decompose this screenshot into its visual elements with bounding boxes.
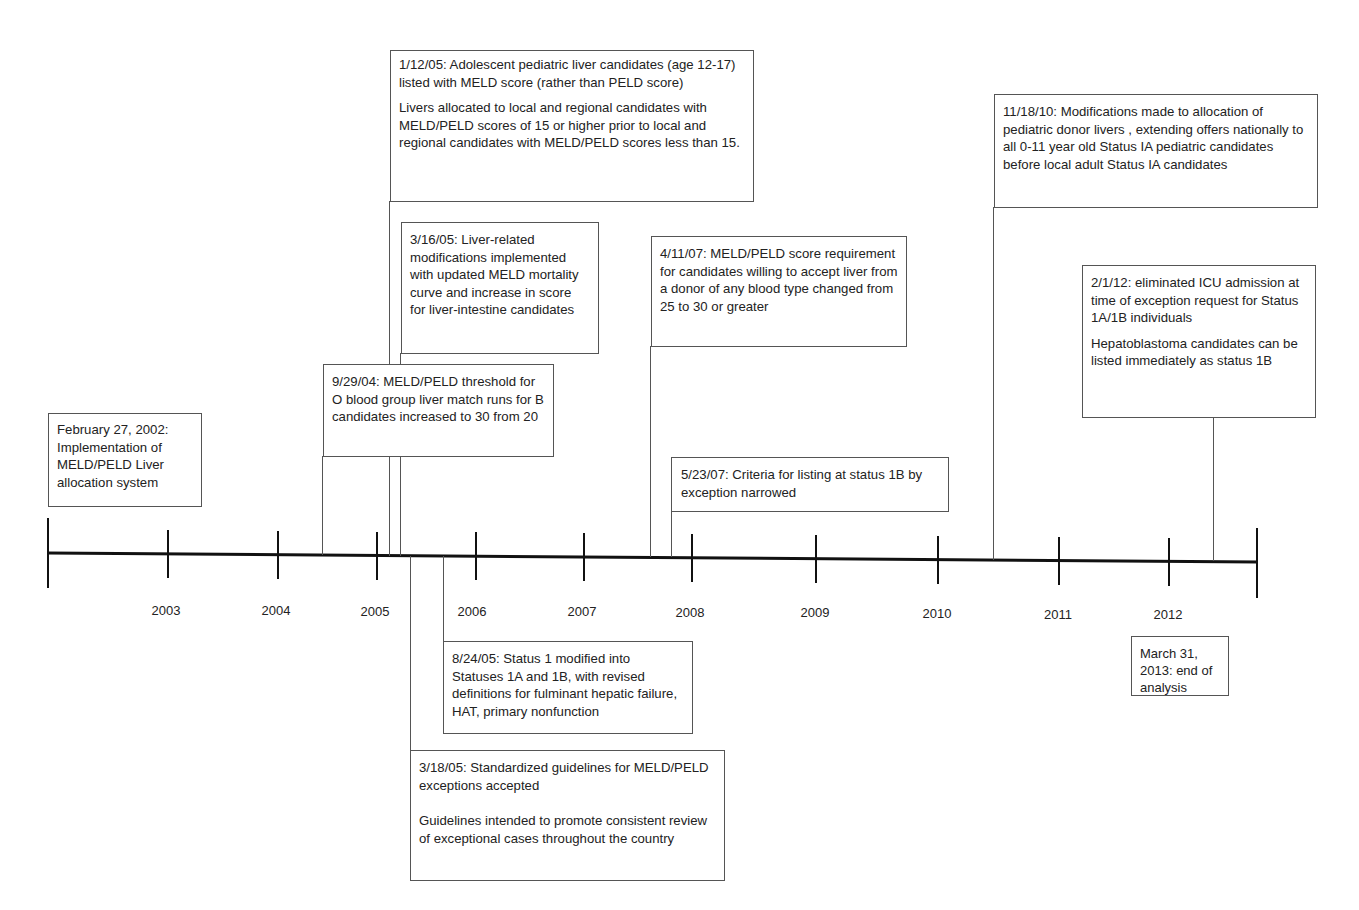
year-label-2009: 2009 bbox=[801, 605, 830, 620]
event-box-1-12-05: 1/12/05: Adolescent pediatric liver cand… bbox=[390, 50, 754, 202]
year-label-2007: 2007 bbox=[568, 604, 597, 619]
tick-2004 bbox=[277, 531, 279, 579]
timeline-start-cap bbox=[47, 518, 49, 588]
event-box-4-11-07: 4/11/07: MELD/PELD score requirement for… bbox=[651, 236, 907, 347]
connector-8-24-05 bbox=[443, 556, 444, 642]
event-box-2-1-12: 2/1/12: eliminated ICU admission at time… bbox=[1082, 265, 1316, 418]
event-text: 9/29/04: MELD/PELD threshold for O blood… bbox=[332, 373, 545, 426]
year-label-2004: 2004 bbox=[262, 603, 291, 618]
event-text: 2/1/12: eliminated ICU admission at time… bbox=[1091, 274, 1307, 327]
event-text: 5/23/07: Criteria for listing at status … bbox=[681, 466, 939, 501]
event-box-5-23-07: 5/23/07: Criteria for listing at status … bbox=[671, 457, 949, 512]
year-label-2005: 2005 bbox=[361, 604, 390, 619]
event-box-end-of-analysis: March 31, 2013: end of analysis bbox=[1131, 636, 1229, 696]
event-text: February 27, 2002: Implementation of MEL… bbox=[57, 421, 193, 491]
connector-9-29-04 bbox=[322, 456, 323, 555]
tick-2010 bbox=[937, 536, 939, 584]
year-label-2011: 2011 bbox=[1044, 607, 1072, 622]
event-text: 8/24/05: Status 1 modified into Statuses… bbox=[452, 650, 684, 720]
connector-11-18-10 bbox=[993, 207, 994, 560]
connector-5-23-07 bbox=[671, 511, 672, 557]
tick-2006 bbox=[475, 532, 477, 580]
tick-2008 bbox=[691, 534, 693, 582]
tick-2005 bbox=[376, 532, 378, 580]
tick-2009 bbox=[815, 535, 817, 583]
event-box-2002-implementation: February 27, 2002: Implementation of MEL… bbox=[48, 413, 202, 507]
tick-2011 bbox=[1058, 537, 1060, 585]
event-text: 1/12/05: Adolescent pediatric liver cand… bbox=[399, 56, 745, 91]
event-box-8-24-05: 8/24/05: Status 1 modified into Statuses… bbox=[443, 641, 693, 734]
event-text: Guidelines intended to promote consisten… bbox=[419, 812, 716, 847]
event-box-9-29-04: 9/29/04: MELD/PELD threshold for O blood… bbox=[323, 364, 554, 457]
tick-2007 bbox=[583, 533, 585, 581]
year-label-2003: 2003 bbox=[152, 603, 181, 618]
year-label-2008: 2008 bbox=[676, 605, 705, 620]
event-text: 11/18/10: Modifications made to allocati… bbox=[1003, 103, 1309, 173]
connector-2-1-12 bbox=[1213, 417, 1214, 561]
event-text: 3/16/05: Liver-related modifications imp… bbox=[410, 231, 590, 319]
tick-2003 bbox=[167, 530, 169, 578]
event-text: 4/11/07: MELD/PELD score requirement for… bbox=[660, 245, 898, 315]
event-box-3-16-05: 3/16/05: Liver-related modifications imp… bbox=[401, 222, 599, 354]
event-box-11-18-10: 11/18/10: Modifications made to allocati… bbox=[994, 94, 1318, 208]
event-text: 3/18/05: Standardized guidelines for MEL… bbox=[419, 759, 716, 794]
year-label-2012: 2012 bbox=[1154, 607, 1183, 622]
connector-4-11-07 bbox=[650, 346, 651, 557]
event-text: Hepatoblastoma candidates can be listed … bbox=[1091, 335, 1307, 370]
year-label-2010: 2010 bbox=[923, 606, 952, 621]
timeline-end-cap bbox=[1256, 528, 1258, 598]
connector-3-18-05 bbox=[410, 556, 411, 751]
event-text: Livers allocated to local and regional c… bbox=[399, 99, 745, 152]
tick-2012 bbox=[1168, 538, 1170, 586]
year-label-2006: 2006 bbox=[458, 604, 487, 619]
event-box-3-18-05: 3/18/05: Standardized guidelines for MEL… bbox=[410, 750, 725, 881]
event-text: March 31, 2013: end of analysis bbox=[1140, 645, 1220, 696]
